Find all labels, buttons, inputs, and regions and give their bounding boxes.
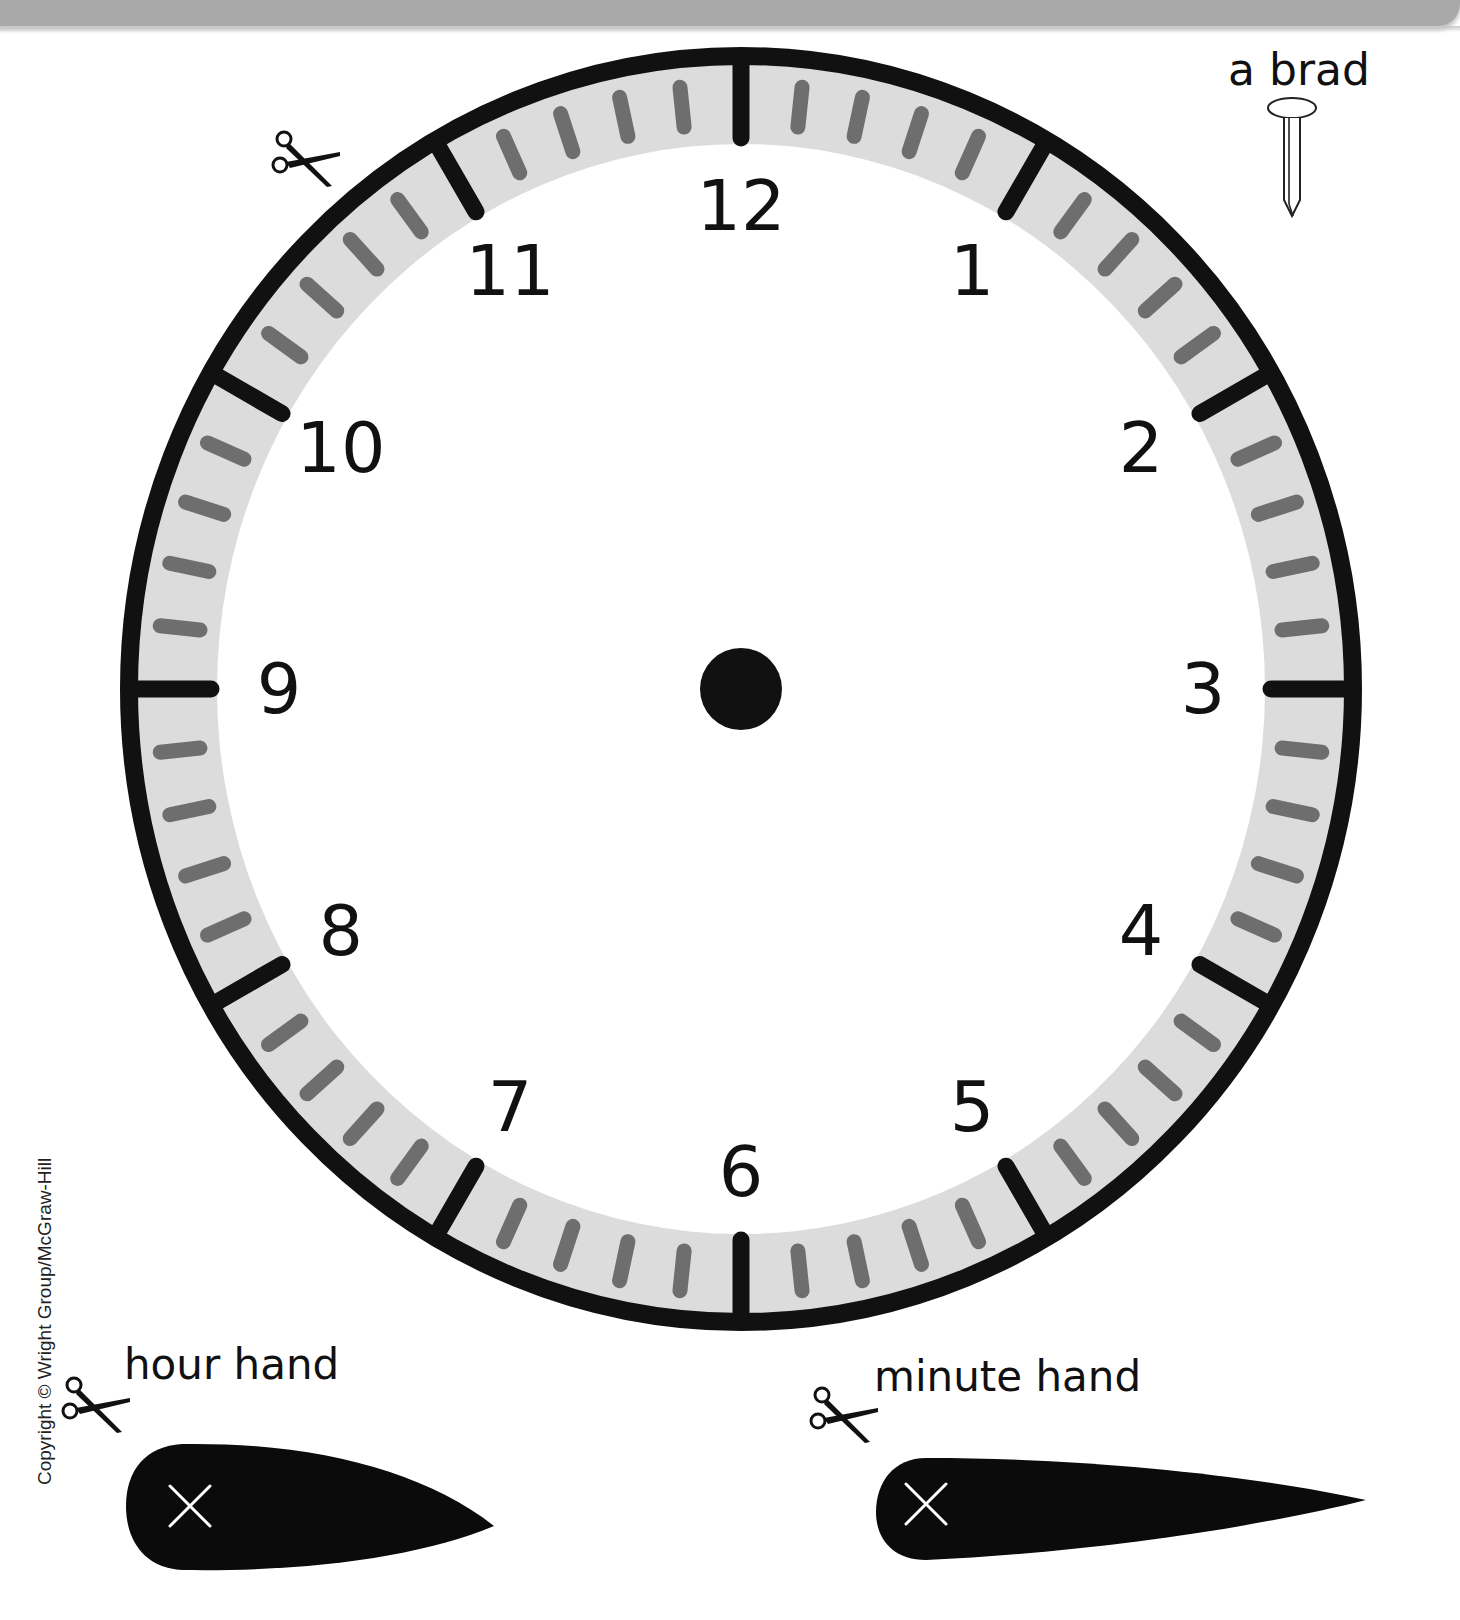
clock-number-7: 7 bbox=[488, 1066, 533, 1148]
minute-tick bbox=[798, 1251, 802, 1291]
scissors-icon bbox=[60, 1376, 136, 1438]
clock-number-4: 4 bbox=[1119, 890, 1164, 972]
minute-tick bbox=[1282, 748, 1322, 752]
copyright-notice: Copyright © Wright Group/McGraw-Hill bbox=[34, 1158, 56, 1485]
minute-tick bbox=[620, 97, 628, 136]
minute-tick bbox=[1282, 626, 1322, 630]
clock-number-8: 8 bbox=[319, 890, 364, 972]
brad-icon bbox=[1262, 96, 1322, 226]
clock-number-2: 2 bbox=[1119, 407, 1164, 489]
minute-tick bbox=[170, 806, 209, 814]
minute-tick bbox=[680, 87, 684, 127]
minute-tick bbox=[1273, 563, 1312, 571]
minute-tick bbox=[680, 1251, 684, 1291]
minute-tick bbox=[854, 97, 862, 136]
clock-number-6: 6 bbox=[719, 1131, 764, 1213]
minute-tick bbox=[620, 1242, 628, 1281]
minute-tick bbox=[160, 748, 200, 752]
minute-tick bbox=[1273, 806, 1312, 814]
minute-hand-label: minute hand bbox=[874, 1352, 1141, 1401]
clock-number-3: 3 bbox=[1181, 648, 1226, 730]
minute-tick bbox=[854, 1242, 862, 1281]
clock-number-1: 1 bbox=[950, 230, 995, 312]
minute-hand-cutout[interactable] bbox=[874, 1456, 1374, 1566]
clock-number-5: 5 bbox=[950, 1066, 995, 1148]
clock-number-9: 9 bbox=[257, 648, 302, 730]
minute-tick bbox=[170, 563, 209, 571]
hour-hand-cutout[interactable] bbox=[122, 1440, 522, 1580]
clock-number-10: 10 bbox=[296, 407, 385, 489]
hour-hand-label: hour hand bbox=[124, 1340, 339, 1389]
clock-number-11: 11 bbox=[465, 230, 554, 312]
minute-tick bbox=[798, 87, 802, 127]
scissors-icon bbox=[808, 1386, 884, 1448]
minute-tick bbox=[160, 626, 200, 630]
scissors-icon bbox=[270, 130, 346, 192]
clock-number-12: 12 bbox=[696, 165, 785, 247]
brad-label: a brad bbox=[1228, 44, 1370, 95]
center-hole-icon[interactable] bbox=[700, 648, 782, 730]
